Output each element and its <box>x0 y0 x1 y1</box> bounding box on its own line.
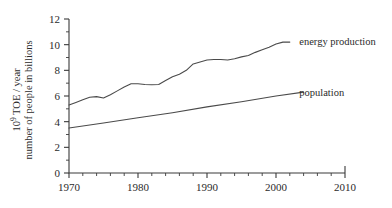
x-axis-ticks: 19701980199020002010 <box>58 173 357 193</box>
svg-text:109 TOE / year: 109 TOE / year <box>9 68 23 132</box>
x-tick-label: 2000 <box>265 181 288 193</box>
series-labels: energy productionpopulation <box>299 36 376 97</box>
energy-population-line-chart: 109 TOE / year number of people in billi… <box>0 0 392 208</box>
series-label-energy-production: energy production <box>299 36 376 47</box>
y-tick-label: 10 <box>49 39 61 51</box>
y-tick-label: 2 <box>55 141 61 153</box>
x-tick-label: 2010 <box>334 181 357 193</box>
series-line-energy-production <box>69 42 290 105</box>
y-axis-title: 109 TOE / year number of people in billi… <box>9 41 35 160</box>
x-tick-label: 1970 <box>58 181 81 193</box>
x-tick-label: 1980 <box>127 181 150 193</box>
y-tick-label: 12 <box>49 13 60 25</box>
y-axis-title-line1-rest: TOE / year <box>11 68 22 117</box>
y-tick-label: 6 <box>55 90 61 102</box>
y-tick-label: 4 <box>55 116 61 128</box>
y-axis-title-line1-base: 10 <box>11 121 22 132</box>
y-tick-label: 8 <box>55 64 61 76</box>
series-label-population: population <box>299 87 345 98</box>
y-tick-label: 0 <box>55 167 61 179</box>
y-axis-title-line2: number of people in billions <box>23 41 34 160</box>
y-axis-ticks: 024681012 <box>49 13 69 179</box>
series-lines <box>69 42 304 128</box>
x-tick-label: 1990 <box>196 181 219 193</box>
chart-page: 109 TOE / year number of people in billi… <box>0 0 392 208</box>
